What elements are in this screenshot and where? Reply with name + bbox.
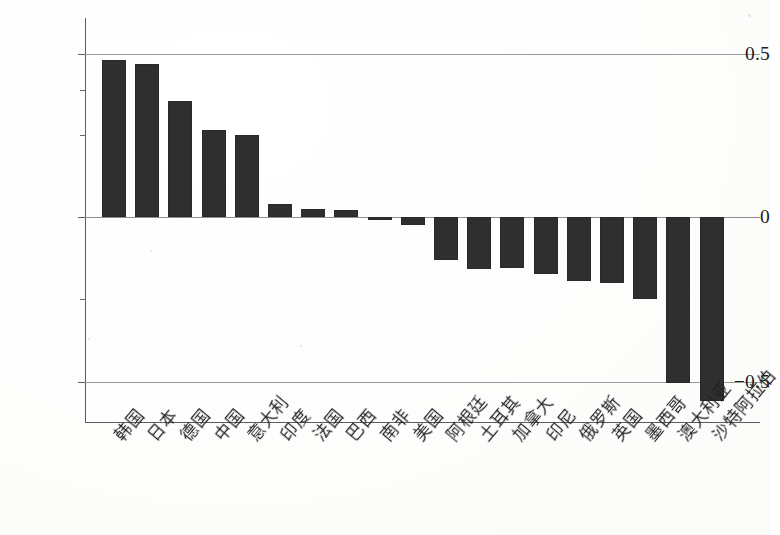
x-axis-label-text: 德国 bbox=[174, 403, 215, 445]
scan-speck bbox=[748, 14, 751, 17]
scan-speck bbox=[150, 250, 152, 252]
scan-speck bbox=[88, 338, 90, 340]
x-axis-label-text: 日本 bbox=[141, 403, 182, 445]
x-axis-label-text: 中国 bbox=[208, 403, 249, 445]
x-axis-label-text: 南非 bbox=[374, 403, 415, 445]
x-axis-label: 美国 bbox=[407, 403, 448, 445]
x-axis-label: 韩国 bbox=[108, 403, 149, 445]
x-axis-label-text: 韩国 bbox=[108, 403, 149, 445]
x-axis-label-text: 巴西 bbox=[340, 403, 381, 445]
x-axis-label: 德国 bbox=[174, 403, 215, 445]
x-axis-label: 南非 bbox=[374, 403, 415, 445]
x-axis-label: 巴西 bbox=[340, 403, 381, 445]
x-axis-label: 中国 bbox=[208, 403, 249, 445]
x-axis-label-text: 法国 bbox=[307, 403, 348, 445]
x-axis-label-text: 美国 bbox=[407, 403, 448, 445]
x-axis-label: 法国 bbox=[307, 403, 348, 445]
x-axis-label: 日本 bbox=[141, 403, 182, 445]
scan-speck bbox=[300, 345, 302, 347]
